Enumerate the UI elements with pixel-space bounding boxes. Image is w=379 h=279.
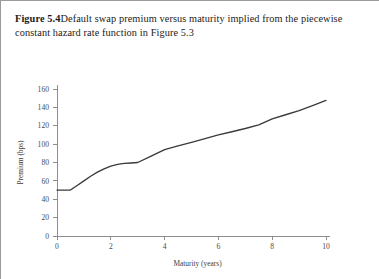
y-axis-tick-label: 160	[38, 85, 50, 94]
y-axis-tick-group: 020406080100120140160	[38, 85, 57, 241]
chart-plot-area: 020406080100120140160 0246810 Maturity (…	[1, 63, 379, 279]
y-axis-tick-label: 20	[41, 213, 49, 222]
x-axis-tick-label: 6	[217, 242, 221, 251]
y-axis-tick-label: 80	[41, 158, 49, 167]
y-axis-tick-label: 40	[41, 195, 49, 204]
premium-vs-maturity-line-chart: 020406080100120140160 0246810 Maturity (…	[1, 63, 379, 279]
x-axis-tick-group: 0246810	[55, 236, 330, 251]
x-axis-tick-label: 2	[109, 242, 113, 251]
figure-caption-text: Default swap premium versus maturity imp…	[15, 13, 342, 38]
x-axis-tick-label: 4	[163, 242, 167, 251]
premium-curve	[57, 100, 326, 190]
y-axis-tick-label: 60	[41, 177, 49, 186]
x-axis-tick-label: 10	[322, 242, 330, 251]
x-axis-title: Maturity (years)	[173, 259, 222, 268]
figure-caption-label: Figure 5.4	[15, 13, 60, 24]
y-axis-tick-label: 100	[38, 140, 50, 149]
y-axis-tick-label: 0	[45, 232, 49, 241]
y-axis-title: Premium (bps)	[16, 140, 25, 185]
figure-caption: Figure 5.4Default swap premium versus ma…	[15, 12, 360, 40]
y-axis-tick-label: 140	[38, 103, 50, 112]
figure-container: Figure 5.4Default swap premium versus ma…	[0, 0, 379, 279]
x-axis-tick-label: 0	[55, 242, 59, 251]
x-axis-tick-label: 8	[270, 242, 274, 251]
y-axis-tick-label: 120	[38, 121, 50, 130]
